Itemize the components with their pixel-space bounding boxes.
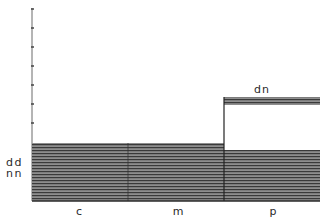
chart-canvas [0, 0, 325, 222]
bar-m [128, 143, 224, 201]
bar-chart: dd nn dn c m p [0, 0, 325, 222]
x-tick-label-c: c [76, 206, 82, 217]
x-tick-label-m: m [173, 206, 184, 217]
bar-p-base [224, 150, 320, 201]
y-axis-label-line2: nn [6, 169, 23, 179]
annotation-dn: dn [254, 84, 270, 95]
x-tick-label-p: p [270, 206, 277, 217]
bar-c [32, 143, 128, 201]
bar-p-dn-band [224, 97, 320, 105]
